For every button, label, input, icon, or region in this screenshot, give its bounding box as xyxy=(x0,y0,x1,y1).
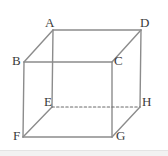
cube-edge-DH xyxy=(140,30,141,107)
vertex-label-D: D xyxy=(140,16,149,29)
vertex-label-G: G xyxy=(116,129,125,142)
edge-layer xyxy=(23,30,141,137)
cube-diagram: ABCDEFGH xyxy=(0,0,168,156)
vertex-label-F: F xyxy=(13,129,20,142)
vertex-label-H: H xyxy=(142,95,151,108)
cube-edge-AE xyxy=(52,30,53,107)
vertex-label-E: E xyxy=(44,95,52,108)
vertex-label-B: B xyxy=(12,54,21,67)
vertex-label-C: C xyxy=(114,54,123,67)
cube-edge-AB xyxy=(24,30,53,62)
cube-edge-BF xyxy=(23,62,24,137)
vertex-label-A: A xyxy=(45,16,54,29)
cube-edge-EF xyxy=(23,107,52,137)
bottom-band xyxy=(0,150,168,156)
